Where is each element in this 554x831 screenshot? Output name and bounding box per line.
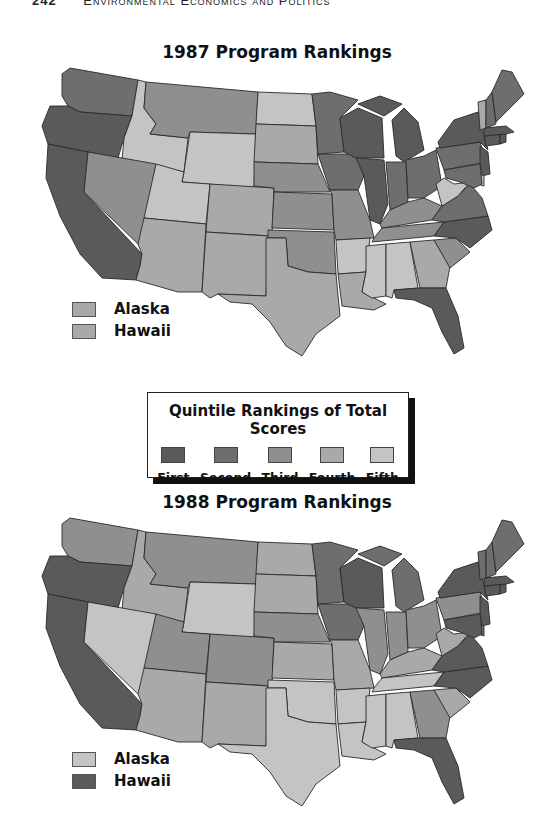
legend-item-fifth: Fifth (366, 447, 399, 485)
legend-swatch (320, 447, 344, 463)
state-wi (340, 558, 384, 608)
state-fl (394, 738, 464, 804)
state-in (386, 162, 408, 210)
quintile-legend: Quintile Rankings of Total Scores First … (147, 392, 409, 478)
state-nd (256, 92, 316, 126)
state-nm (202, 682, 268, 748)
state-ri (500, 134, 506, 144)
state-ne (254, 612, 330, 642)
hawaii-swatch (72, 324, 96, 339)
state-az (136, 668, 206, 742)
inset-alaska-1987: Alaska (72, 298, 171, 320)
state-wy (182, 132, 256, 188)
alaska-swatch (72, 752, 96, 767)
state-co (206, 184, 274, 236)
state-fl (394, 288, 464, 354)
state-ks (272, 192, 334, 230)
legend-swatch (268, 447, 292, 463)
legend-item-fourth: Fourth (309, 447, 356, 485)
legend-title: Quintile Rankings of Total Scores (148, 402, 408, 438)
state-ms (362, 694, 386, 748)
legend-item-third: Third (262, 447, 299, 485)
inset-hawaii-1988: Hawaii (72, 770, 171, 792)
state-nd (256, 542, 316, 576)
legend-swatch (214, 447, 238, 463)
legend-item-first: First (157, 447, 189, 485)
state-me (492, 520, 524, 572)
map-title-1988: 1988 Program Rankings (0, 492, 554, 512)
state-sd (254, 574, 318, 614)
state-me (492, 70, 524, 122)
map-title-1987: 1987 Program Rankings (0, 42, 554, 62)
hawaii-swatch (72, 774, 96, 789)
state-ks (272, 642, 334, 680)
state-in (386, 612, 408, 660)
state-az (136, 218, 206, 292)
inset-hawaii-1987: Hawaii (72, 320, 171, 342)
state-ri (500, 584, 506, 594)
state-ma (484, 126, 514, 136)
state-co (206, 634, 274, 686)
state-wi (340, 108, 384, 158)
legend-swatch (370, 447, 394, 463)
alaska-swatch (72, 302, 96, 317)
inset-legend-1987: Alaska Hawaii (72, 298, 171, 342)
inset-alaska-1988: Alaska (72, 748, 171, 770)
state-sd (254, 124, 318, 164)
running-title: Environmental Economics and Politics (83, 0, 330, 8)
state-mt (144, 82, 258, 138)
state-nj (480, 146, 490, 176)
legend-item-second: Second (200, 447, 251, 485)
state-nm (202, 232, 268, 298)
inset-legend-1988: Alaska Hawaii (72, 748, 171, 792)
state-ma (484, 576, 514, 586)
state-wy (182, 582, 256, 638)
state-ne (254, 162, 330, 192)
legend-swatch (161, 447, 185, 463)
state-nj (480, 596, 490, 626)
state-ar (336, 688, 370, 724)
state-mt (144, 532, 258, 588)
state-ms (362, 244, 386, 298)
state-ar (336, 238, 370, 274)
page-number: 242 (32, 0, 57, 8)
running-header: 242 Environmental Economics and Politics (32, 0, 331, 8)
